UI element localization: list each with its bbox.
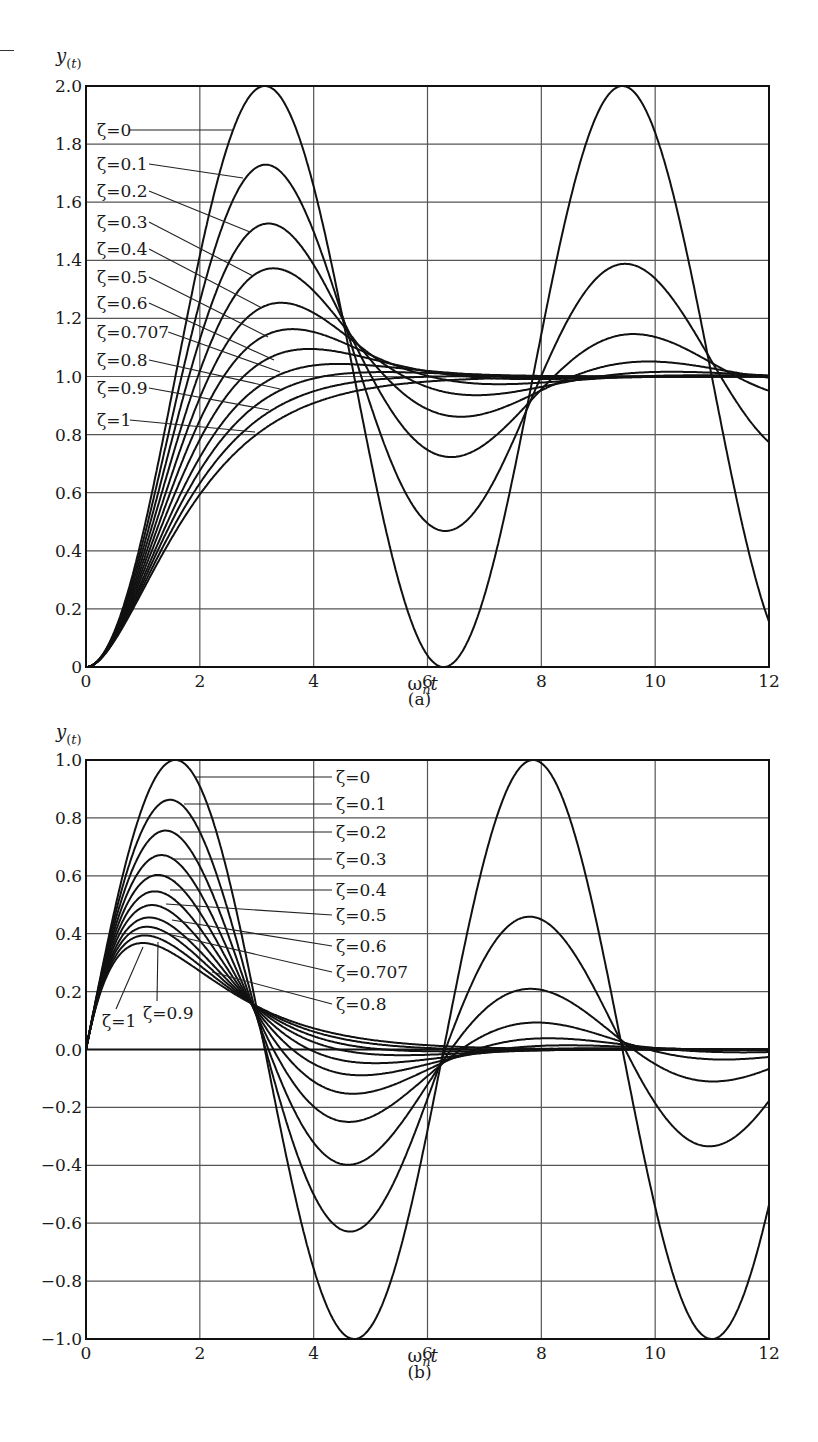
figure-canvas: 02468101200.20.40.60.81.01.21.41.61.82.0… xyxy=(0,0,818,1442)
y-tick-label: −0.2 xyxy=(41,1097,82,1117)
x-tick-label: 4 xyxy=(308,1343,319,1363)
y-tick-label: 1.8 xyxy=(55,134,82,154)
x-tick-label: 0 xyxy=(81,1343,92,1363)
y-tick-label: −0.4 xyxy=(41,1155,82,1175)
zeta-label: ζ=0.4 xyxy=(97,239,148,259)
zeta-label: ζ=0.8 xyxy=(97,350,148,370)
y-tick-label: 0.8 xyxy=(55,808,82,828)
zeta-label: ζ=0.8 xyxy=(336,994,387,1014)
zeta-label: ζ=0.1 xyxy=(336,794,387,814)
y-tick-label: 0.6 xyxy=(55,483,82,503)
leader-line xyxy=(166,904,332,915)
zeta-labels: ζ=0ζ=0.1ζ=0.2ζ=0.3ζ=0.4ζ=0.5ζ=0.6ζ=0.707… xyxy=(97,120,280,432)
y-tick-label: 0.2 xyxy=(55,599,82,619)
x-tick-label: 8 xyxy=(536,671,547,691)
chart-b-impulse-response: 024681012−1.0−0.8−0.6−0.4−0.20.00.20.40.… xyxy=(41,721,780,1382)
x-tick-label: 2 xyxy=(194,671,205,691)
y-tick-label: 1.4 xyxy=(55,250,82,270)
zeta-label: ζ=0.707 xyxy=(336,962,408,982)
x-tick-label: 10 xyxy=(644,1343,666,1363)
y-tick-label: −1.0 xyxy=(41,1329,82,1349)
y-tick-label: 1.6 xyxy=(55,192,82,212)
y-tick-label: −0.8 xyxy=(41,1271,82,1291)
leader-line xyxy=(172,920,332,946)
zeta-label: ζ=0.5 xyxy=(97,267,148,287)
zeta-label: ζ=0.1 xyxy=(97,154,148,174)
figure-caption: (a) xyxy=(408,689,431,709)
y-axis-label: y(t) xyxy=(55,721,82,747)
zeta-label: ζ=0.5 xyxy=(336,905,387,925)
x-tick-label: 12 xyxy=(758,671,780,691)
leader-line xyxy=(172,935,332,972)
y-tick-label: 0.0 xyxy=(55,1040,82,1060)
figure-caption: (b) xyxy=(407,1362,431,1382)
x-tick-label: 4 xyxy=(308,671,319,691)
zeta-label: ζ=0.2 xyxy=(336,822,387,842)
y-tick-label: 1.0 xyxy=(55,367,82,387)
zeta-label: ζ=0 xyxy=(336,767,370,787)
zeta-label: ζ=0.4 xyxy=(336,880,387,900)
y-tick-label: 0.4 xyxy=(55,924,82,944)
y-axis-label: y(t) xyxy=(55,45,82,71)
chart-a-step-response: 02468101200.20.40.60.81.01.21.41.61.82.0… xyxy=(55,45,780,709)
zeta-label: ζ=0.9 xyxy=(97,378,148,398)
zeta-label: ζ=0.2 xyxy=(97,181,148,201)
zeta-label: ζ=0.6 xyxy=(97,293,148,313)
zeta-label: ζ=1 xyxy=(102,1011,136,1031)
zeta-label: ζ=0 xyxy=(97,120,131,140)
leader-line xyxy=(116,947,143,1009)
zeta-label: ζ=1 xyxy=(97,410,131,430)
y-tick-label: 0.4 xyxy=(55,541,82,561)
x-tick-label: 12 xyxy=(758,1343,780,1363)
y-tick-label: 0.8 xyxy=(55,425,82,445)
x-tick-label: 8 xyxy=(536,1343,547,1363)
zeta-label: ζ=0.6 xyxy=(336,936,387,956)
zeta-label: ζ=0.707 xyxy=(97,322,169,342)
x-tick-label: 10 xyxy=(644,671,666,691)
zeta-label: ζ=0.9 xyxy=(143,1003,194,1023)
zeta-label: ζ=0.3 xyxy=(336,849,387,869)
y-tick-label: 0 xyxy=(71,657,82,677)
x-tick-label: 0 xyxy=(81,671,92,691)
y-tick-label: 0.2 xyxy=(55,982,82,1002)
y-tick-label: 0.6 xyxy=(55,866,82,886)
x-tick-label: 2 xyxy=(194,1343,205,1363)
y-tick-label: 1.2 xyxy=(55,308,82,328)
y-tick-label: 1.0 xyxy=(55,750,82,770)
y-tick-label: −0.6 xyxy=(41,1213,82,1233)
y-tick-label: 2.0 xyxy=(55,76,82,96)
zeta-label: ζ=0.3 xyxy=(97,212,148,232)
leader-line xyxy=(149,164,243,178)
leader-line xyxy=(149,249,262,308)
